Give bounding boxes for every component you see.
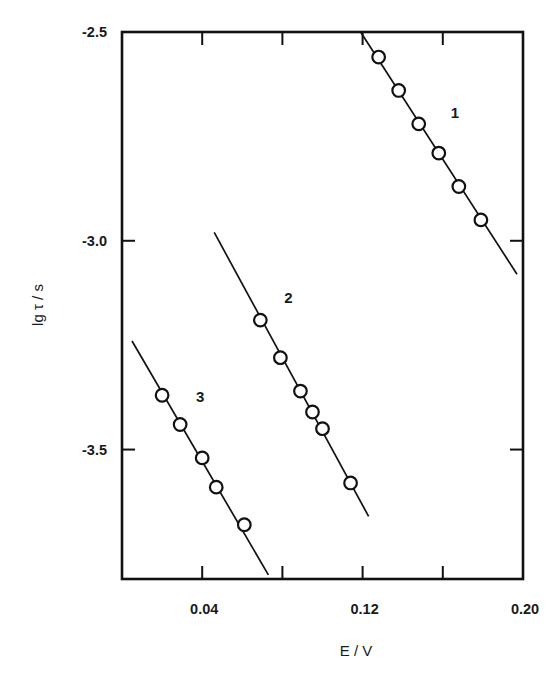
series-number-label: 2 [284,289,292,306]
x-tick-label: 0.12 [350,601,378,617]
x-axis-ticks [202,32,443,579]
y-axis-tick-labels: -2.5-3.0-3.5 [82,24,107,458]
data-point-marker [238,518,251,531]
x-axis-tick-labels: 0.040.120.20 [190,601,539,617]
data-point-marker [316,422,329,435]
series-3: 3 [132,341,268,575]
chart-canvas: 0.040.120.20 -2.5-3.0-3.5 123 E / V lg τ… [0,0,552,683]
data-point-marker [432,147,445,160]
data-point-marker [274,351,287,364]
x-axis-label: E / V [340,642,373,659]
data-point-marker [453,180,466,193]
data-point-marker [372,51,385,64]
series-2: 2 [214,232,368,516]
y-tick-label: -3.5 [82,442,107,458]
series-1: 1 [361,32,517,274]
x-tick-label: 0.04 [190,601,218,617]
x-tick-label: 0.20 [511,601,539,617]
data-point-marker [196,452,209,465]
plot-frame [122,32,523,579]
fit-line [214,232,368,516]
data-point-marker [156,389,169,402]
data-point-marker [210,481,223,494]
data-point-marker [306,406,319,419]
series-layer: 123 [132,32,517,575]
data-point-marker [344,477,357,490]
data-point-marker [294,385,307,398]
data-point-marker [392,84,405,97]
data-point-marker [475,214,488,227]
data-point-marker [174,418,187,431]
series-number-label: 3 [196,388,204,405]
y-axis-label: lg τ / s [29,284,46,326]
data-point-marker [254,314,267,327]
y-tick-label: -2.5 [82,24,107,40]
data-point-marker [412,118,425,131]
series-number-label: 1 [451,104,459,121]
y-tick-label: -3.0 [82,233,107,249]
